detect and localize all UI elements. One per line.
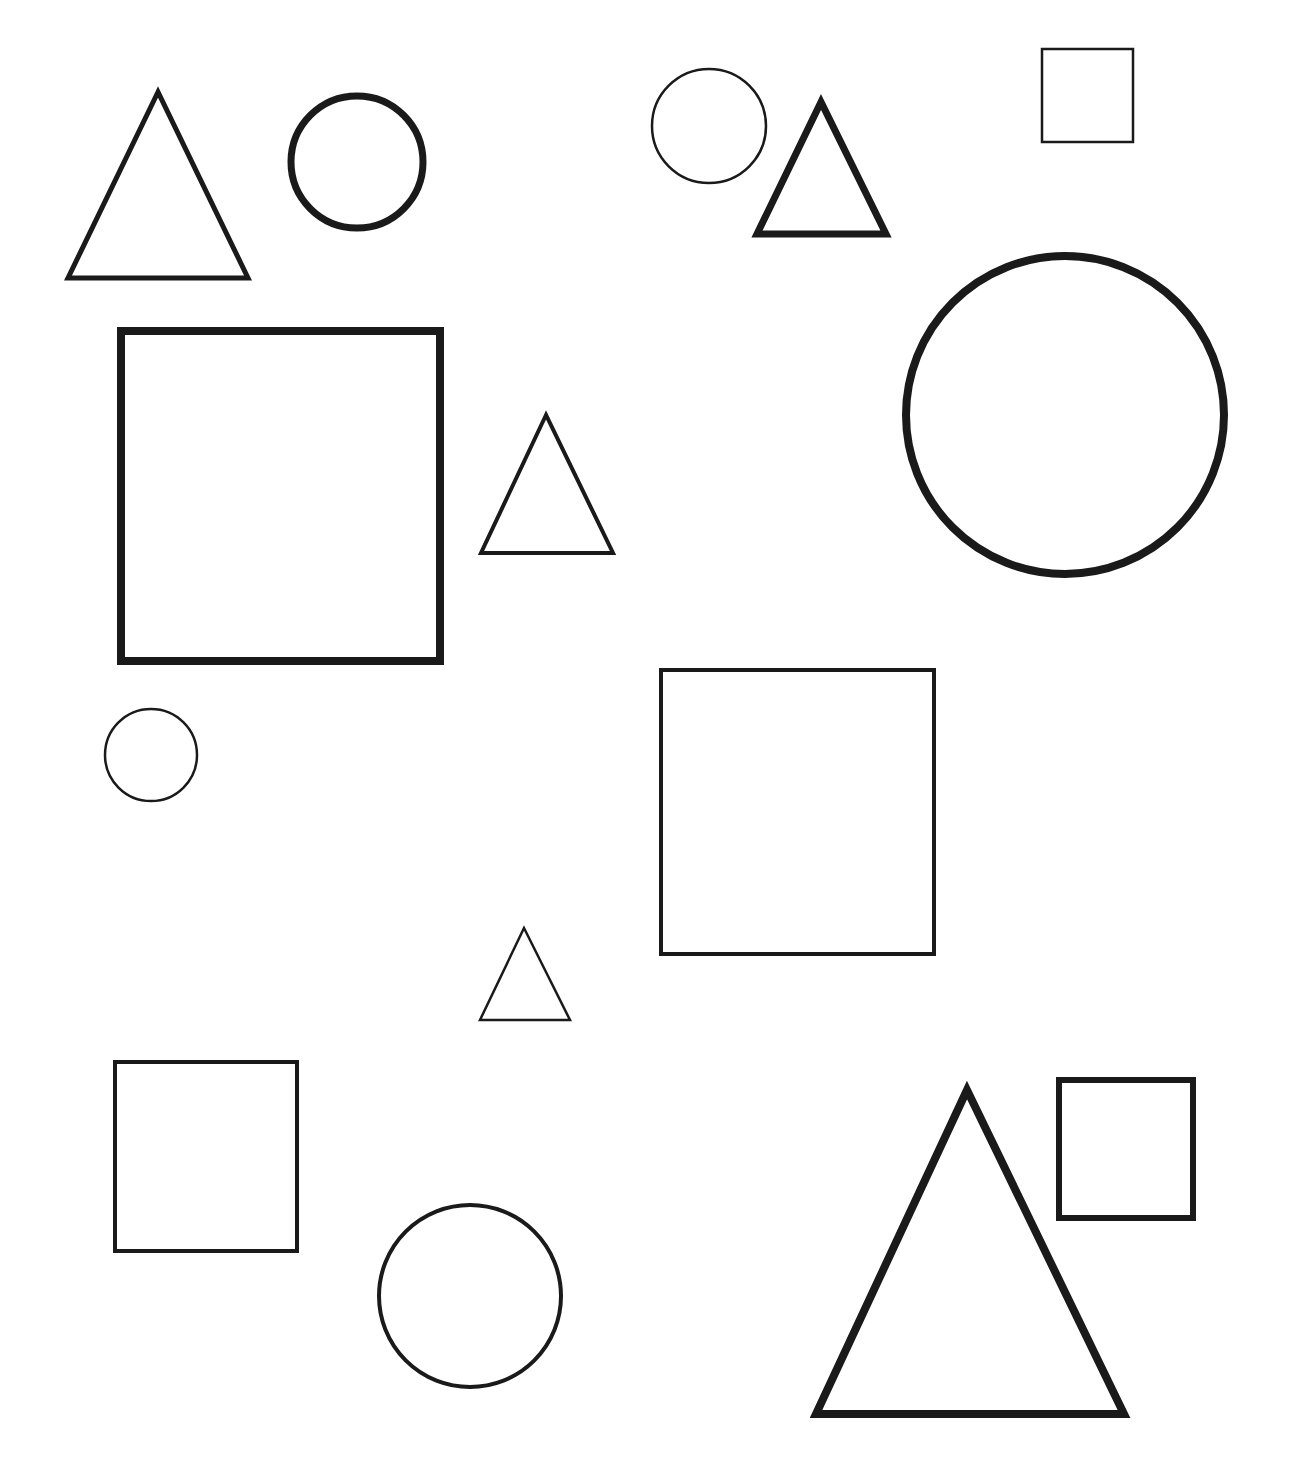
- square-shape: [1042, 49, 1133, 142]
- circle-shape: [291, 96, 423, 228]
- triangle-shape: [816, 1090, 1124, 1414]
- square-shape: [121, 331, 440, 661]
- triangle-shape: [757, 102, 886, 234]
- triangle-shape: [481, 415, 613, 553]
- shapes-worksheet-canvas: [0, 0, 1310, 1479]
- square-shape: [115, 1062, 297, 1251]
- triangle-shape: [68, 92, 248, 278]
- circle-shape: [652, 69, 766, 183]
- triangle-shape: [480, 928, 570, 1020]
- circle-shape: [105, 709, 197, 801]
- shape-layer: [68, 49, 1224, 1414]
- circle-shape: [906, 256, 1224, 574]
- circle-shape: [379, 1205, 561, 1387]
- square-shape: [661, 670, 934, 954]
- square-shape: [1059, 1080, 1193, 1218]
